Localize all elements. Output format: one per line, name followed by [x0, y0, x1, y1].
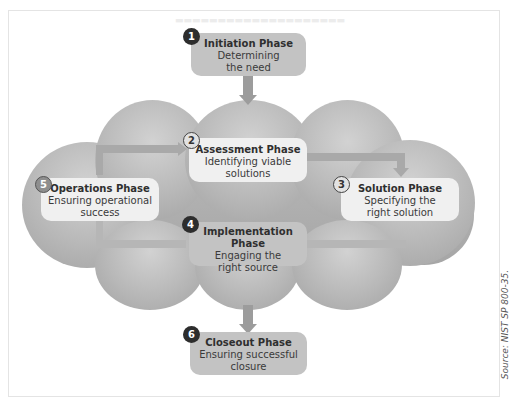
- phase-desc-line1: Ensuring successful: [190, 349, 307, 361]
- phase-number-badge-6: 6: [183, 326, 200, 343]
- phase-desc-line1: Ensuring operational: [41, 195, 159, 207]
- phase-desc-line2: right solution: [341, 207, 459, 219]
- phase-title: Operations Phase: [41, 183, 159, 195]
- phase-title: Implementation Phase: [189, 226, 307, 250]
- background-text: ▬▬▬▬▬▬▬▬▬▬▬▬▬▬▬▬▬▬▬▬: [175, 15, 345, 25]
- phase-implementation: Implementation Phase Engaging the right …: [189, 222, 307, 266]
- phase-initiation: Initiation Phase Determining the need: [191, 33, 306, 76]
- phase-desc-line2: the need: [191, 62, 306, 74]
- phase-number-badge-4: 4: [182, 216, 199, 233]
- phase-number-badge-2: 2: [183, 132, 200, 149]
- phase-title: Initiation Phase: [191, 38, 306, 50]
- phase-assessment: Assessment Phase Identifying viable solu…: [189, 138, 307, 182]
- phase-desc-line1: Specifying the: [341, 195, 459, 207]
- phase-desc-line2: success: [41, 207, 159, 219]
- source-caption: Source: NIST SP 800-35.: [500, 270, 510, 379]
- phase-desc-line2: closure: [190, 361, 307, 373]
- phase-title: Closeout Phase: [190, 337, 307, 349]
- phase-number-badge-5: 5: [35, 176, 52, 193]
- phase-desc-line1: Identifying viable: [189, 156, 307, 168]
- phase-solution: Solution Phase Specifying the right solu…: [341, 178, 459, 221]
- phase-number-badge-1: 1: [183, 28, 200, 45]
- phase-desc-line1: Determining: [191, 50, 306, 62]
- phase-operations: Operations Phase Ensuring operational su…: [41, 178, 159, 221]
- phase-desc-line2: solutions: [189, 168, 307, 180]
- phase-number-badge-3: 3: [333, 176, 350, 193]
- phase-title: Solution Phase: [341, 183, 459, 195]
- phase-desc-line1: Engaging the: [189, 250, 307, 262]
- phase-closeout: Closeout Phase Ensuring successful closu…: [190, 332, 307, 375]
- phase-title: Assessment Phase: [189, 144, 307, 156]
- phase-desc-line2: right source: [189, 262, 307, 274]
